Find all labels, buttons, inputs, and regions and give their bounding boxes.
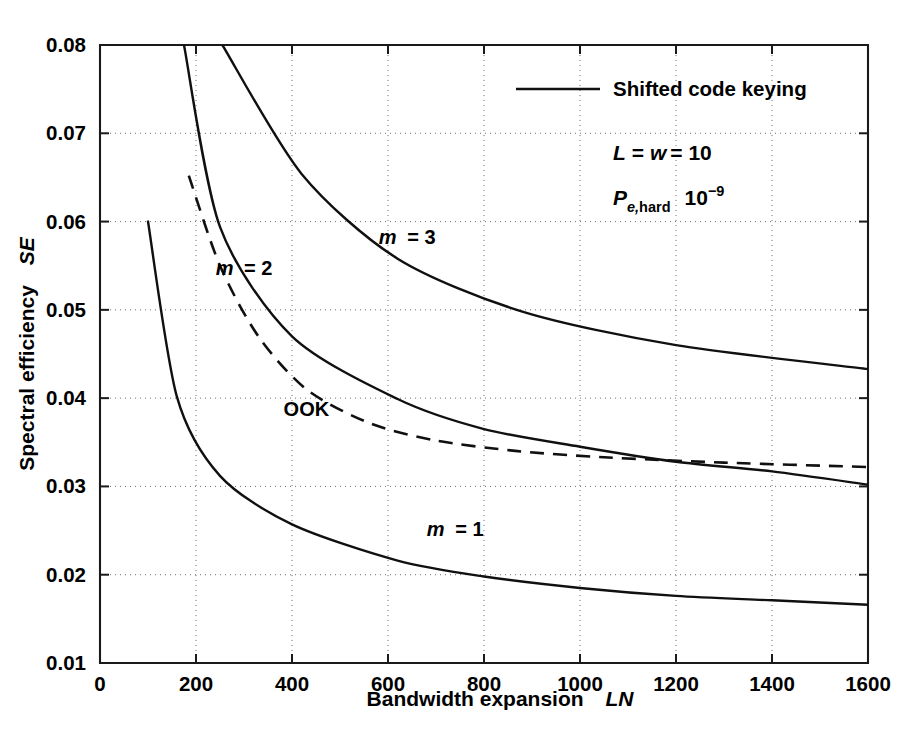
y-tick-labels: 0.010.020.030.040.050.060.070.08	[46, 33, 86, 674]
y-tick-label: 0.06	[46, 210, 86, 233]
x-tick-label: 1400	[749, 672, 795, 695]
x-tick-label: 200	[179, 672, 213, 695]
y-tick-label: 0.08	[46, 33, 86, 56]
annotation-L-w: L= w= 10	[613, 141, 712, 164]
x-tick-label: 1600	[845, 672, 891, 695]
x-tick-label: 400	[275, 672, 309, 695]
curve-labels: m = 1m = 2m = 3OOK	[216, 226, 484, 540]
y-axis-title: Spectral efficiency SE	[15, 236, 38, 470]
y-tick-label: 0.03	[46, 474, 86, 497]
y-tick-label: 0.02	[46, 563, 86, 586]
spectral-efficiency-chart: m = 1m = 2m = 3OOK 020040060080010001200…	[0, 0, 920, 742]
curve-m-1	[148, 222, 868, 605]
curve-label-ook: OOK	[284, 398, 330, 420]
y-tick-label: 0.07	[46, 121, 86, 144]
x-axis-title-text: Bandwidth expansion	[367, 687, 584, 710]
legend-label-shifted-code-keying: Shifted code keying	[613, 77, 807, 100]
gridlines	[100, 45, 868, 663]
curve-label-m-3: m = 3	[379, 226, 436, 248]
annotation-pe-hard: Pe,hard10−9	[613, 183, 724, 215]
curve-label-m-2: m = 2	[216, 257, 273, 279]
x-axis-title-symbol: LN	[605, 687, 634, 710]
y-tick-label: 0.05	[46, 298, 86, 321]
annotations: L= w= 10 Pe,hard10−9	[613, 141, 724, 215]
chart-figure: m = 1m = 2m = 3OOK 020040060080010001200…	[0, 0, 920, 742]
svg-text:Spectral efficiency SE: Spectral efficiency SE	[15, 236, 38, 470]
data-curves	[148, 45, 868, 605]
y-axis-title-text: Spectral efficiency	[15, 285, 38, 471]
x-tick-label: 1200	[653, 672, 699, 695]
curve-ook	[189, 176, 868, 467]
y-tick-label: 0.04	[46, 386, 86, 409]
y-axis-title-symbol: SE	[15, 236, 38, 265]
legend: Shifted code keying	[516, 77, 807, 100]
y-tick-label: 0.01	[46, 651, 86, 674]
x-tick-label: 0	[94, 672, 105, 695]
curve-label-m-1: m = 1	[427, 518, 484, 540]
